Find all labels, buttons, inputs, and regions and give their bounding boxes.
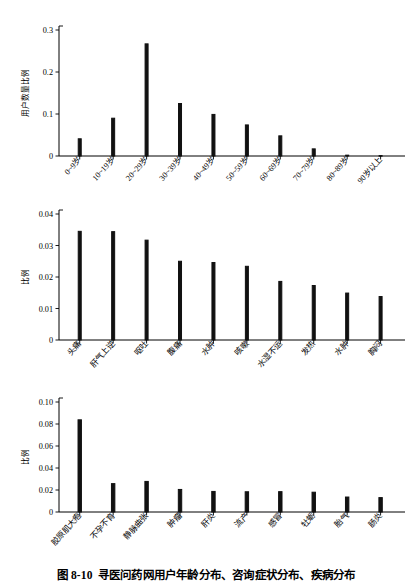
bar [379,498,382,512]
bar [78,420,81,512]
bar [312,149,315,156]
figure-caption-text: 寻医问药网用户年龄分布、咨询症状分布、疾病分布 [98,569,356,581]
y-tick-label: 0.2 [43,68,53,77]
x-tick-label: 肿瘤 [165,511,183,530]
y-tick-label: 0.06 [39,442,53,451]
x-tick-label: 90岁以上 [355,155,384,186]
bar [179,261,182,340]
y-axis-title: 用户数量比例 [20,69,30,117]
disease-distribution-plot: 00.020.040.060.080.10比例胶原肌大疱不孕不育静脉曲张肿瘤肝炎… [0,390,412,565]
bar [212,263,215,340]
x-tick-label: 10~19岁 [90,155,117,183]
chart-age-distribution: 00.10.20.3用户数量比例0~9岁10~19岁20~29岁30~39岁40… [0,10,412,200]
x-tick-label: 胎气 [333,511,351,530]
x-tick-label: 水肿 [333,339,351,358]
x-tick-label: 肝气上逆 [88,339,117,369]
y-tick-label: 0.04 [39,464,53,473]
figure-container: 00.10.20.3用户数量比例0~9岁10~19岁20~29岁30~39岁40… [0,0,412,584]
x-tick-label: 胶原肌大疱 [49,511,83,547]
bar [279,492,282,512]
y-tick-label: 0.08 [39,420,53,429]
x-tick-label: 肝炎 [200,511,217,529]
bar [78,231,81,340]
y-tick-label: 0 [49,152,53,161]
bar [212,491,215,512]
bar [112,118,115,156]
y-axis-title: 比例 [20,449,30,465]
y-tick-label: 0.1 [43,110,53,119]
bar [179,104,182,157]
x-tick-label: 20~29岁 [123,155,150,183]
bar [111,484,114,512]
x-tick-label: 60~69岁 [257,155,284,183]
figure-number: 图 8-10 [57,569,93,581]
y-tick-label: 0.04 [39,210,53,219]
x-tick-label: 70~79岁 [291,155,318,183]
y-tick-label: 0.03 [39,242,53,251]
y-tick-label: 0 [49,508,53,517]
bar [112,232,115,340]
y-tick-label: 0.02 [39,486,53,495]
x-tick-label: 咳嗽 [232,339,250,358]
x-tick-label: 不孕不育 [88,511,117,541]
x-tick-label: 80~89岁 [324,155,351,183]
symptom-distribution-plot: 00.010.020.030.04比例头痛肝气上逆呕吐腹痛水肿咳嗽水湿不运发热水… [0,200,412,390]
y-tick-label: 0 [49,336,53,345]
bar [312,492,315,512]
x-tick-label: 发热 [299,339,317,358]
figure-caption: 图 8-10寻医问药网用户年龄分布、咨询症状分布、疾病分布 [0,566,412,582]
bar [345,497,348,512]
x-tick-label: 水肿 [199,339,217,358]
bar [346,155,349,156]
y-axis-title: 比例 [20,269,30,285]
x-tick-label: 30~39岁 [157,155,184,183]
x-tick-label: 感冒 [266,511,284,530]
bar [145,240,148,340]
bar [279,281,282,340]
bar [178,489,181,512]
bar [312,286,315,340]
bar [212,114,215,156]
bar [279,136,282,156]
x-tick-label: 50~59岁 [224,155,251,183]
chart-disease-distribution: 00.020.040.060.080.10比例胶原肌大疱不孕不育静脉曲张肿瘤肝炎… [0,390,412,565]
age-distribution-plot: 00.10.20.3用户数量比例0~9岁10~19岁20~29岁30~39岁40… [0,10,412,200]
x-tick-label: 静脉曲张 [121,511,150,541]
bar [245,492,248,512]
y-tick-label: 0.3 [43,26,53,35]
y-tick-label: 0.01 [39,305,53,314]
bar [346,293,349,340]
x-tick-label: 胸闷 [366,339,384,358]
bar [379,297,382,340]
x-tick-label: 牡蛎 [299,511,317,530]
bar [145,44,148,156]
bar [145,481,148,512]
x-tick-label: 呕吐 [133,339,150,357]
x-tick-label: 40~49岁 [190,155,217,183]
bar [78,139,81,156]
y-tick-label: 0.02 [39,273,53,282]
x-tick-label: 水湿不运 [255,339,284,369]
bar [245,266,248,340]
bar [245,125,248,156]
x-tick-label: 腹痛 [165,339,183,358]
x-tick-label: 头痛 [65,339,83,358]
x-tick-label: 肠炎 [367,511,384,529]
chart-symptom-distribution: 00.010.020.030.04比例头痛肝气上逆呕吐腹痛水肿咳嗽水湿不运发热水… [0,200,412,390]
x-tick-label: 流产 [232,511,250,530]
y-tick-label: 0.10 [39,398,53,407]
